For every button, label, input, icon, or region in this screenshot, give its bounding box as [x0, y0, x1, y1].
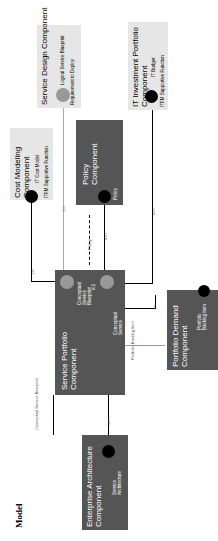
it-investment-port: [145, 90, 158, 103]
cost-modeling-port: [25, 190, 38, 203]
enterprise-architecture-port: [102, 445, 115, 458]
policy-card-label: n:m: [103, 233, 108, 240]
service-design-title: Service Design Component: [40, 8, 49, 105]
policy-port: [98, 190, 111, 203]
portfolio-demand-component[interactable]: Portfolio Demand Component Portfolio Bac…: [167, 290, 218, 370]
conceptual-service-port: [100, 275, 114, 289]
cost-modeling-item-2: ITFM Supportive Function: [44, 146, 49, 198]
ea-card-label: n:m: [106, 418, 111, 425]
portfolio-demand-item-1: Portfolio Backlog Item: [197, 300, 207, 330]
it-investment-item-1: IT Budget: [151, 58, 156, 77]
service-portfolio-item-1: Conceptual Service Blueprint: [77, 275, 92, 305]
policy-flow-label: Policy: [87, 239, 92, 250]
cost-card-label: 1:n: [30, 269, 35, 275]
blueprint-flow-label: Conceptual Service Blueprint: [34, 378, 39, 430]
enterprise-architecture-title: Enterprise Architecture Component: [85, 432, 103, 527]
service-design-item-1: Logical Service Blueprint: [60, 35, 65, 85]
portfolio-demand-port: [198, 285, 210, 297]
service-design-port: [56, 88, 70, 102]
blueprint-port: [60, 275, 74, 289]
blueprint-flow: [53, 395, 54, 435]
portfolio-demand-title: Portfolio Demand Component: [171, 297, 189, 367]
demand-card-label: 1:n: [152, 304, 157, 310]
enterprise-architecture-item-1: Service Architecture: [112, 465, 122, 495]
inner-card-label: n:1: [91, 284, 96, 290]
policy-item-1: Policy: [113, 188, 118, 200]
service-design-item-2: Requirement to Deploy: [70, 59, 75, 105]
service-portfolio-item-2: Conceptual Service: [113, 313, 123, 335]
cost-connector: [31, 195, 32, 281]
policy-title: Policy Component: [81, 125, 99, 185]
service-portfolio-title: Service Portfolio Component: [60, 310, 78, 390]
design-connector: [63, 100, 64, 281]
model-title: Model: [14, 504, 24, 529]
backlog-flow-label: Portfolio Backlog Item: [130, 321, 135, 360]
design-card-label: 1:n: [61, 206, 66, 212]
invest-connector: [152, 100, 153, 283]
cost-modeling-item-1: IT Cost Model: [35, 155, 40, 183]
it-investment-item-2: ITFM Supportive Function: [160, 55, 165, 107]
invest-card-label: n:m: [151, 208, 156, 215]
cost-modeling-title: Cost Modeling Component: [13, 128, 31, 198]
